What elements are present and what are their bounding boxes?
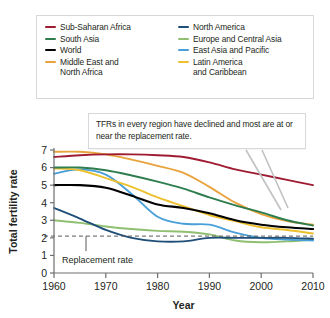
annotation-callout: TFRs in every region have declined and m… bbox=[88, 113, 306, 149]
y-axis-tick-label: 5 bbox=[41, 179, 47, 191]
y-axis-tick-label: 7 bbox=[41, 144, 47, 156]
x-axis-title: Year bbox=[172, 299, 194, 311]
legend-item-label: Europe and Central Asia bbox=[193, 34, 282, 45]
series-line bbox=[54, 185, 313, 229]
x-axis-tick-label: 1960 bbox=[42, 280, 66, 292]
legend-item: Latin America and Caribbean bbox=[178, 57, 305, 78]
legend-color-swatch bbox=[45, 49, 56, 51]
legend-color-swatch bbox=[45, 38, 56, 40]
annotation-text: TFRs in every region have declined and m… bbox=[96, 119, 293, 141]
legend-item: Middle East and North Africa bbox=[45, 57, 172, 78]
y-axis-tick-label: 3 bbox=[41, 214, 47, 226]
legend-color-swatch bbox=[45, 26, 56, 28]
axis-layer: 01234567196019701980199020002010 bbox=[41, 144, 325, 292]
legend-item-label: North America bbox=[193, 22, 245, 33]
y-axis-tick-label: 4 bbox=[41, 197, 47, 209]
y-axis-tick-label: 6 bbox=[41, 161, 47, 173]
y-axis-tick-label: 0 bbox=[41, 267, 47, 279]
legend-item: Europe and Central Asia bbox=[178, 34, 305, 45]
legend-item-label: Sub-Saharan Africa bbox=[60, 22, 131, 33]
legend-item-label: South Asia bbox=[60, 34, 99, 45]
legend-color-swatch bbox=[178, 38, 189, 40]
legend-color-swatch bbox=[178, 49, 189, 51]
legend-item: East Asia and Pacific bbox=[178, 45, 305, 56]
legend-color-swatch bbox=[45, 61, 56, 63]
y-axis-tick-label: 2 bbox=[41, 232, 47, 244]
legend-item: North America bbox=[178, 22, 305, 33]
series-line bbox=[54, 208, 313, 242]
replacement-rate-label: Replacement rate bbox=[62, 255, 133, 265]
y-axis-title: Total fertility rate bbox=[7, 169, 19, 254]
x-axis-tick-label: 1980 bbox=[146, 280, 170, 292]
series-line bbox=[54, 169, 313, 240]
legend-item: Sub-Saharan Africa bbox=[45, 22, 172, 33]
y-axis-tick-label: 1 bbox=[41, 249, 47, 261]
x-axis-tick-label: 2000 bbox=[250, 280, 274, 292]
legend-item: South Asia bbox=[45, 34, 172, 45]
legend-item: World bbox=[45, 45, 172, 56]
legend-item-label: World bbox=[60, 45, 81, 56]
x-axis-tick-label: 2010 bbox=[301, 280, 325, 292]
legend-item-label: Middle East and North Africa bbox=[60, 57, 119, 78]
legend-color-swatch bbox=[178, 61, 189, 63]
replacement-rate-line: Replacement rate bbox=[44, 236, 313, 265]
x-axis-tick-label: 1990 bbox=[198, 280, 222, 292]
legend-color-swatch bbox=[178, 26, 189, 28]
legend-item-label: Latin America and Caribbean bbox=[193, 57, 247, 78]
x-axis-tick-label: 1970 bbox=[94, 280, 118, 292]
chart-legend: Sub-Saharan AfricaNorth AmericaSouth Asi… bbox=[36, 15, 314, 99]
legend-item-label: East Asia and Pacific bbox=[193, 45, 269, 56]
